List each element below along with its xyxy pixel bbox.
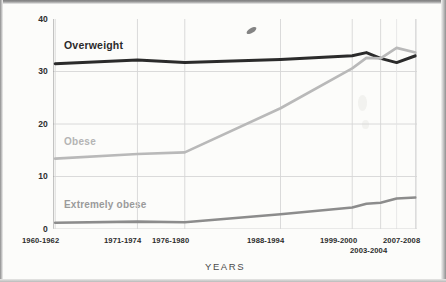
x-tick-2007-2008: 2007-2008 [383, 236, 420, 245]
scan-right-shadow [441, 0, 446, 282]
x-tick-1971-1974: 1971-1974 [104, 236, 141, 245]
y-tick-40: 40 [26, 15, 48, 24]
x-tick-1999-2000: 1999-2000 [320, 236, 357, 245]
scan-top-shadow [0, 0, 446, 4]
chart-plot-area [53, 19, 417, 229]
scanned-page: 40 30 20 10 0 PERCENT YEARS 1960-1962 19… [0, 0, 446, 282]
scan-left-shadow [0, 0, 3, 282]
y-tick-20: 20 [26, 120, 48, 129]
x-tick-1976-1980: 1976-1980 [152, 236, 189, 245]
gridlines [53, 19, 417, 229]
x-tick-1988-1994: 1988-1994 [247, 236, 284, 245]
y-tick-10: 10 [26, 172, 48, 181]
y-tick-30: 30 [26, 67, 48, 76]
line-chart-svg [53, 19, 417, 229]
y-tick-0: 0 [26, 225, 48, 234]
x-axis-title: YEARS [205, 261, 245, 272]
x-tick-1960-1962: 1960-1962 [22, 236, 59, 245]
x-tick-2003-2004: 2003-2004 [350, 246, 387, 255]
series-lines [55, 48, 415, 223]
